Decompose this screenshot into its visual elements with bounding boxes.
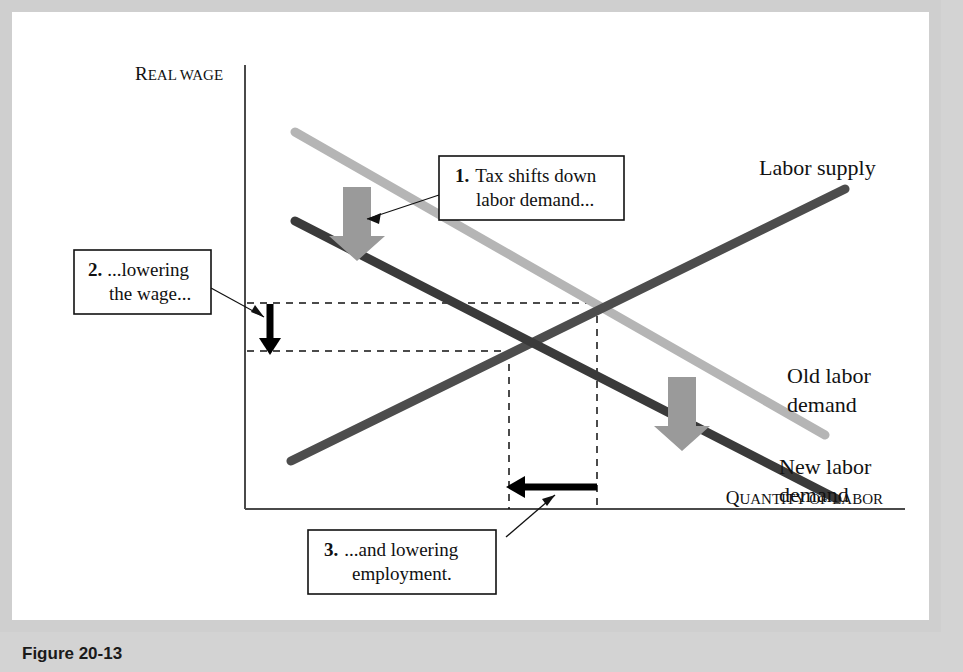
callout-2[interactable]: 2....lowering the wage... — [74, 250, 211, 314]
caption-bar: Figure 20-13 — [0, 632, 963, 672]
new-labor-demand-label-line2: demand — [779, 482, 849, 507]
employment-drop-arrow — [506, 476, 597, 498]
callout-3-line1: 3....and lowering — [324, 539, 459, 560]
figure-panel: REAL WAGE QUANTITY OF LABOR — [12, 12, 929, 620]
callout-1-line1: 1.Tax shifts down — [455, 165, 597, 186]
figure-frame: REAL WAGE QUANTITY OF LABOR — [0, 0, 941, 632]
new-labor-demand-curve — [295, 221, 837, 499]
labor-supply-label: Labor supply — [759, 155, 876, 180]
figure-caption: Figure 20-13 — [22, 644, 122, 664]
callout-1[interactable]: 1.Tax shifts down labor demand... — [439, 156, 624, 220]
figure-page: REAL WAGE QUANTITY OF LABOR — [0, 0, 963, 672]
callout-2-connector — [211, 288, 264, 317]
old-labor-demand-label-line2: demand — [787, 392, 857, 417]
callout-2-line2: the wage... — [109, 283, 191, 304]
callout-3-line2: employment. — [352, 563, 452, 584]
old-labor-demand-label-line1: Old labor — [787, 363, 871, 388]
shift-arrow-left — [329, 187, 385, 261]
callout-3[interactable]: 3....and lowering employment. — [308, 530, 496, 594]
callout-1-line2: labor demand... — [476, 189, 594, 210]
y-axis-label: REAL WAGE — [135, 63, 223, 84]
wage-drop-arrow — [259, 304, 281, 355]
labor-supply-curve — [291, 189, 845, 461]
new-labor-demand-label-line1: New labor — [779, 454, 872, 479]
labor-market-diagram: REAL WAGE QUANTITY OF LABOR — [12, 12, 929, 620]
callout-3-connector — [506, 495, 555, 537]
